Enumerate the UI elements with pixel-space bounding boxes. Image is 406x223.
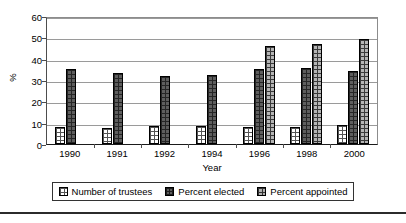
bottom-divider	[0, 212, 406, 214]
y-tick-label: 10	[20, 119, 42, 128]
y-tick-label: 20	[20, 98, 42, 107]
bar-trustees-2000	[337, 125, 347, 144]
legend-entry-appointed: Percent appointed	[257, 186, 347, 197]
legend-entry-elected: Percent elected	[165, 186, 244, 197]
bar-group	[47, 18, 94, 144]
y-axis: 6050403020100	[14, 17, 42, 145]
y-tick-label: 40	[20, 55, 42, 64]
x-tick-label: 1996	[236, 148, 283, 162]
y-tick-label: 0	[20, 141, 42, 150]
x-tick-label: 1994	[188, 148, 235, 162]
bar-elected-1994	[207, 75, 217, 144]
x-tick-label: 1998	[283, 148, 330, 162]
plot-area	[46, 17, 378, 145]
bar-elected-1991	[113, 73, 123, 144]
bars-layer	[47, 18, 377, 144]
bar-elected-2000	[348, 71, 358, 144]
bar-appointed-2000	[359, 39, 369, 144]
bar-trustees-1991	[102, 128, 112, 144]
y-tick-label: 50	[20, 34, 42, 43]
bar-trustees-1998	[290, 127, 300, 144]
bar-group	[94, 18, 141, 144]
legend-swatch-icon	[165, 187, 174, 196]
bar-group	[188, 18, 235, 144]
bar-group	[330, 18, 377, 144]
bar-chart-figure: % 6050403020100 199019911992199419961998…	[0, 0, 406, 223]
legend-label: Number of trustees	[72, 186, 153, 197]
bar-group	[141, 18, 188, 144]
bar-appointed-1996	[265, 46, 275, 144]
x-tick-label: 2000	[331, 148, 378, 162]
y-tick-label: 30	[20, 77, 42, 86]
x-tick-label: 1990	[46, 148, 93, 162]
legend-label: Percent appointed	[270, 186, 347, 197]
bar-appointed-1998	[312, 44, 322, 144]
bar-trustees-1994	[196, 126, 206, 144]
bar-elected-1990	[66, 69, 76, 144]
bar-trustees-1996	[243, 127, 253, 144]
bar-elected-1996	[254, 69, 264, 144]
bar-elected-1998	[301, 68, 311, 144]
bar-group	[236, 18, 283, 144]
bar-trustees-1990	[55, 127, 65, 144]
x-tick-label: 1992	[141, 148, 188, 162]
legend-label: Percent elected	[178, 186, 244, 197]
bar-trustees-1992	[149, 126, 159, 144]
legend-entry-trustees: Number of trustees	[59, 186, 153, 197]
chart-legend: Number of trusteesPercent electedPercent…	[52, 182, 354, 201]
bar-group	[283, 18, 330, 144]
y-tick-mark	[42, 145, 46, 146]
legend-swatch-icon	[59, 187, 68, 196]
bar-elected-1992	[160, 76, 170, 144]
legend-swatch-icon	[257, 187, 266, 196]
x-axis-title: Year	[46, 162, 378, 173]
y-tick-label: 60	[20, 13, 42, 22]
x-tick-label: 1991	[93, 148, 140, 162]
x-axis: 1990199119921994199619982000	[46, 148, 378, 162]
